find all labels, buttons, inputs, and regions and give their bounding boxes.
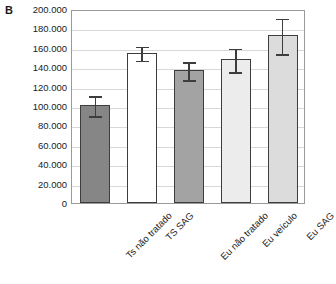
y-axis-tick-label: 40.000: [3, 160, 67, 170]
y-axis-tick-label: 160.000: [3, 44, 67, 54]
error-bar-cap-top: [136, 47, 149, 49]
error-bar-cap-bottom: [183, 80, 196, 82]
error-bar-line: [282, 19, 284, 56]
error-bar: [80, 96, 110, 117]
error-bar-cap-top: [183, 62, 196, 64]
y-axis-tick-label: 0: [3, 199, 67, 209]
error-bar: [174, 62, 204, 81]
y-axis-tick-label: 60.000: [3, 141, 67, 151]
y-axis-tick-label: 200.000: [3, 5, 67, 15]
error-bar-cap-bottom: [229, 72, 242, 74]
y-axis-tick-label: 80.000: [3, 121, 67, 131]
bar: [268, 35, 298, 203]
x-axis-tick-label: Eu não tratado: [218, 210, 270, 262]
y-axis-tick-label: 180.000: [3, 24, 67, 34]
error-bar-cap-top: [276, 19, 289, 21]
plot-area: [71, 10, 305, 204]
y-axis-tick-label: 140.000: [3, 63, 67, 73]
bar: [174, 70, 204, 203]
error-bar-cap-bottom: [89, 116, 102, 118]
error-bar: [221, 49, 251, 74]
error-bar-cap-top: [89, 96, 102, 98]
y-axis-tick-labels: 200.000180.000160.000140.000120.000100.0…: [0, 10, 67, 204]
y-axis-tick-label: 20.000: [3, 180, 67, 190]
error-bar: [127, 47, 157, 63]
error-bar: [268, 19, 298, 56]
error-bar-line: [95, 96, 97, 117]
bar: [221, 59, 251, 203]
x-axis-tick-labels: Ts não tratadoTS SAGEu não tratadoEu veí…: [71, 204, 305, 284]
y-axis-tick-label: 100.000: [3, 102, 67, 112]
error-bar-cap-bottom: [136, 61, 149, 63]
error-bar-line: [235, 49, 237, 74]
bar: [80, 105, 110, 203]
error-bar-cap-top: [229, 49, 242, 51]
y-axis-tick-label: 120.000: [3, 83, 67, 93]
bar: [127, 53, 157, 203]
error-bar-cap-bottom: [276, 54, 289, 56]
x-axis-tick-label: Eu SAG: [304, 210, 336, 242]
error-bar-line: [188, 62, 190, 81]
